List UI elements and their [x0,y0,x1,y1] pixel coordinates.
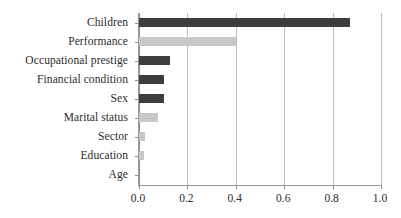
plot-area [138,13,381,186]
category-label: Age [109,165,128,184]
bar-chart: ChildrenPerformanceOccupational prestige… [0,0,401,218]
bar-row [139,108,381,127]
bar [139,132,145,141]
bar [139,37,236,46]
category-label: Sex [110,89,128,108]
bar-row [139,32,381,51]
x-tick-label: 1.0 [373,190,387,206]
category-label: Education [80,146,128,165]
x-tick-mark [236,185,237,189]
bar [139,113,158,122]
x-tick-mark [284,185,285,189]
bar [139,75,164,84]
bar-row [139,89,381,108]
bar [139,151,144,160]
x-tick-label: 0.2 [179,190,193,206]
bar-row [139,127,381,146]
category-label: Financial condition [37,70,128,89]
x-tick-label: 0.0 [131,190,145,206]
bar [139,56,170,65]
bar [139,94,164,103]
x-tick-label: 0.6 [276,190,290,206]
bar-row [139,165,381,184]
category-label: Children [87,13,128,32]
bar [139,18,350,27]
x-tick-mark [187,185,188,189]
value-axis: 0.00.20.40.60.81.0 [138,190,380,208]
bar-row [139,70,381,89]
category-axis: ChildrenPerformanceOccupational prestige… [0,13,134,185]
bar-row [139,146,381,165]
x-tick-mark [139,185,140,189]
x-tick-label: 0.4 [228,190,242,206]
x-tick-mark [333,185,334,189]
bar-row [139,51,381,70]
bar-row [139,13,381,32]
category-label: Marital status [64,108,128,127]
category-label: Occupational prestige [25,51,128,70]
category-label: Sector [98,127,128,146]
x-tick-label: 0.8 [324,190,338,206]
x-tick-mark [381,185,382,189]
category-label: Performance [68,32,128,51]
gridline [381,13,382,185]
